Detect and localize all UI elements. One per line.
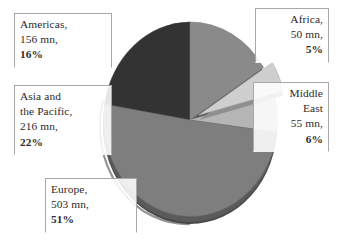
label-middle-east: Middle East 55 mn, 6% (253, 82, 329, 152)
label-asia-percent: 22% (20, 135, 106, 150)
label-asia-line2: the Pacific, (20, 104, 106, 119)
label-middle-east-line1: Middle (259, 86, 323, 101)
label-africa-line1: Africa, (261, 12, 323, 27)
label-asia-and-the-pacific: Asia and the Pacific, 216 mn, 22% (14, 85, 112, 155)
label-asia-line1: Asia and (20, 89, 106, 104)
label-americas-percent: 16% (20, 47, 106, 62)
pie-slice-asia-and-the-pacific (105, 22, 190, 120)
label-americas-line1: Americas, (20, 17, 106, 32)
label-africa: Africa, 50 mn, 5% (255, 8, 329, 63)
label-middle-east-line2: East (259, 101, 323, 116)
label-europe-line2: 503 mn, (51, 197, 131, 212)
label-europe-percent: 51% (51, 212, 131, 227)
label-asia-line3: 216 mn, (20, 119, 106, 134)
label-middle-east-line3: 55 mn, (259, 116, 323, 131)
label-americas-line2: 156 mn, (20, 32, 106, 47)
label-africa-percent: 5% (261, 42, 323, 57)
label-africa-line2: 50 mn, (261, 27, 323, 42)
label-europe-line1: Europe, (51, 182, 131, 197)
label-middle-east-percent: 6% (259, 132, 323, 147)
label-europe: Europe, 503 mn, 51% (45, 178, 137, 233)
label-americas: Americas, 156 mn, 16% (14, 13, 112, 68)
pie-chart: Americas, 156 mn, 16% Asia and the Pacif… (0, 0, 343, 245)
